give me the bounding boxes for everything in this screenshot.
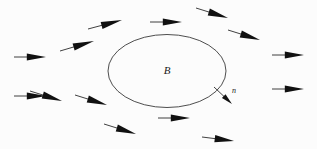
field-arrow-bottom-right: [202, 135, 234, 142]
field-arrow-top-right-inner: [196, 8, 228, 18]
field-arrow-bottom-left-inner-head: [87, 96, 107, 105]
field-arrow-right-upper: [272, 51, 304, 58]
flux-diagram: B n: [0, 0, 317, 149]
normal-vector: [214, 87, 232, 104]
field-arrow-bottom-center-low-head: [116, 125, 136, 134]
region-layer: B: [108, 35, 226, 108]
field-arrow-upper-left-outer-tail: [60, 47, 74, 51]
region-label: B: [164, 64, 171, 76]
field-arrow-upper-left-outer: [60, 41, 94, 51]
field-arrow-top-right-inner-tail: [196, 8, 209, 12]
field-arrow-upper-left-inner: [88, 20, 122, 29]
field-arrow-bottom-center-head: [171, 114, 190, 121]
field-arrow-bottom-right-tail: [202, 137, 215, 139]
field-arrow-bottom-right-head: [214, 135, 234, 142]
field-arrow-bottom-center-low: [104, 124, 136, 134]
field-arrow-upper-left-inner-tail: [88, 25, 102, 29]
vector-field-arrow-layer: [14, 8, 304, 142]
field-arrow-upper-left-outer-head: [73, 41, 94, 50]
field-arrow-bottom-center-low-tail: [104, 124, 117, 128]
field-arrow-top-center: [150, 18, 182, 25]
field-arrow-bottom-center: [158, 114, 190, 121]
field-arrow-left-upper: [14, 53, 46, 60]
field-arrow-bottom-left-inner-tail: [75, 95, 88, 99]
diagram-canvas: B n: [0, 0, 317, 149]
field-arrow-top-right-inner-head: [208, 9, 228, 18]
field-arrow-right-upper-head: [285, 51, 304, 58]
normal-vector-label: n: [232, 86, 236, 95]
field-arrow-right-lower-head: [285, 85, 304, 92]
field-arrow-right-lower: [272, 85, 304, 92]
field-arrow-top-right-outer: [228, 30, 260, 40]
field-arrow-left-upper-head: [27, 53, 46, 60]
field-arrow-left-lower: [14, 92, 46, 99]
field-arrow-bottom-left-inner: [75, 95, 107, 105]
field-arrow-top-center-head: [163, 18, 182, 25]
normal-vector-layer: n: [214, 86, 236, 104]
field-arrow-top-right-outer-head: [240, 31, 260, 40]
field-arrow-upper-left-inner-head: [101, 20, 122, 29]
field-arrow-bottom-left-outer-head: [42, 92, 62, 101]
field-arrow-top-right-outer-tail: [228, 30, 241, 34]
